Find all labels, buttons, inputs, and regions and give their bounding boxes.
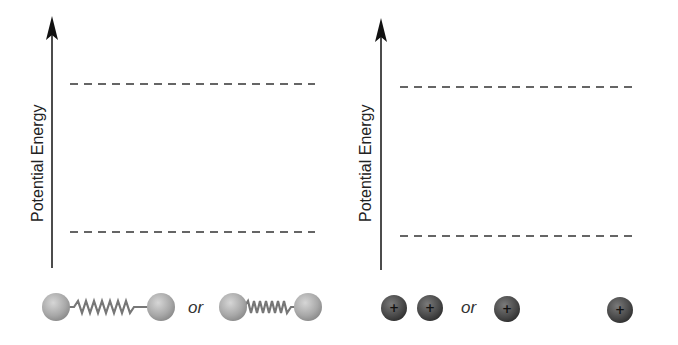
stretched-spring-molecule [42, 293, 175, 321]
spring-icon [244, 301, 296, 313]
compressed-spring-molecule [219, 293, 322, 321]
plus-sign: + [615, 303, 625, 317]
far-charges: + + [494, 296, 633, 323]
spring-icon [68, 301, 150, 313]
plus-sign: + [502, 302, 512, 316]
atom-icon [294, 293, 322, 321]
or-separator: or [188, 298, 204, 317]
plus-sign: + [389, 301, 399, 315]
or-separator: or [461, 298, 477, 317]
y-axis-label: Potential Energy [29, 105, 46, 222]
atom-icon [219, 293, 247, 321]
plus-sign: + [425, 301, 435, 315]
left-panel: Potential Energy or [29, 16, 322, 321]
y-axis-label: Potential Energy [357, 105, 374, 222]
close-charges: + + [381, 295, 443, 321]
atom-icon [42, 293, 70, 321]
energy-diagram: Potential Energy or Potential Energy + + [0, 0, 678, 345]
atom-icon [147, 293, 175, 321]
right-panel: Potential Energy + + or + + [357, 18, 638, 323]
